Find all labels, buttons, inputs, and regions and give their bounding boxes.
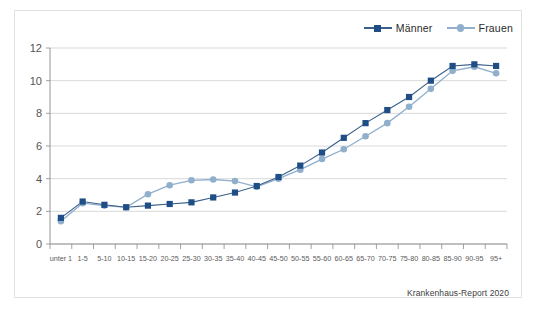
data-point-maenner <box>362 120 368 126</box>
x-tick-label: 45-50 <box>269 254 287 263</box>
x-tick-label: 65-70 <box>356 254 374 263</box>
gridlines-group <box>50 48 507 244</box>
chart-figure: Männer Frauen 024681012 unter 11-55-1010… <box>0 0 535 312</box>
data-point-maenner <box>341 135 347 141</box>
y-tick-label: 4 <box>36 173 42 185</box>
data-point-maenner <box>319 149 325 155</box>
y-tick-label: 2 <box>36 205 42 217</box>
data-point-maenner <box>80 198 86 204</box>
data-point-maenner <box>471 61 477 67</box>
data-point-frauen <box>166 182 173 189</box>
data-point-maenner <box>123 204 129 210</box>
data-point-frauen <box>340 146 347 153</box>
data-point-maenner <box>145 203 151 209</box>
x-tick-label: 85-90 <box>443 254 461 263</box>
data-point-frauen <box>210 176 217 183</box>
data-point-maenner <box>297 163 303 169</box>
data-point-maenner <box>101 202 107 208</box>
y-tick-label: 6 <box>36 140 42 152</box>
data-point-frauen <box>232 178 239 185</box>
x-tick-label: unter 1 <box>50 254 72 263</box>
y-axis-ticks-group: 024681012 <box>30 42 50 250</box>
x-tick-label: 10-15 <box>117 254 135 263</box>
line-chart-svg: 024681012 unter 11-55-1010-1515-2020-252… <box>0 0 535 312</box>
data-point-maenner <box>58 215 64 221</box>
data-point-frauen <box>384 120 391 127</box>
data-point-frauen <box>428 86 435 93</box>
data-point-frauen <box>406 104 413 111</box>
x-tick-label: 75-80 <box>400 254 418 263</box>
series-points-group <box>58 61 500 224</box>
data-point-maenner <box>449 63 455 69</box>
data-point-maenner <box>428 78 434 84</box>
x-tick-label: 15-20 <box>139 254 157 263</box>
x-tick-label: 55-60 <box>313 254 331 263</box>
data-point-maenner <box>406 94 412 100</box>
source-caption: Krankenhaus-Report 2020 <box>407 288 509 298</box>
x-axis-ticks-group <box>50 244 507 249</box>
x-tick-label: 95+ <box>490 254 502 263</box>
x-axis-labels-group: unter 11-55-1010-1515-2020-2525-3030-353… <box>50 254 503 263</box>
data-point-maenner <box>210 194 216 200</box>
data-point-maenner <box>493 63 499 69</box>
data-point-frauen <box>145 191 152 198</box>
x-tick-label: 35-40 <box>226 254 244 263</box>
y-tick-label: 12 <box>30 42 42 54</box>
x-tick-label: 80-85 <box>422 254 440 263</box>
data-point-frauen <box>362 133 369 140</box>
x-tick-label: 60-65 <box>335 254 353 263</box>
data-point-maenner <box>167 201 173 207</box>
data-point-maenner <box>232 189 238 195</box>
x-tick-label: 1-5 <box>77 254 87 263</box>
data-point-maenner <box>384 107 390 113</box>
x-tick-label: 20-25 <box>160 254 178 263</box>
y-tick-label: 8 <box>36 107 42 119</box>
x-tick-label: 25-30 <box>182 254 200 263</box>
x-tick-label: 50-55 <box>291 254 309 263</box>
data-point-frauen <box>319 156 326 163</box>
x-tick-label: 5-10 <box>97 254 111 263</box>
data-point-maenner <box>254 183 260 189</box>
data-point-frauen <box>493 70 500 77</box>
y-tick-label: 10 <box>30 75 42 87</box>
x-tick-label: 70-75 <box>378 254 396 263</box>
y-tick-label: 0 <box>36 238 42 250</box>
data-point-frauen <box>188 177 195 184</box>
x-tick-label: 30-35 <box>204 254 222 263</box>
data-point-maenner <box>188 199 194 205</box>
plot-area: 024681012 unter 11-55-1010-1515-2020-252… <box>0 0 535 312</box>
x-tick-label: 40-45 <box>248 254 266 263</box>
x-tick-label: 90-95 <box>465 254 483 263</box>
data-point-maenner <box>275 174 281 180</box>
